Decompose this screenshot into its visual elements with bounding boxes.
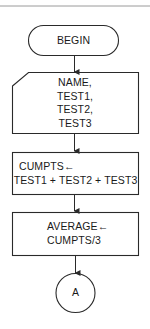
avg-line-assign: AVERAGE← (13, 219, 138, 233)
begin-text: BEGIN (57, 34, 90, 46)
input-line-name: NAME, (20, 76, 130, 90)
input-line-test1: TEST1, (20, 90, 130, 104)
sum-line-assign: CUMPTS← (13, 159, 138, 173)
avg-line-expr: CUMPTS/3 (13, 233, 138, 247)
avg-label: AVERAGE← CUMPTS/3 (13, 219, 138, 247)
input-line-test3: TEST3 (20, 117, 130, 131)
input-label: NAME, TEST1, TEST2, TEST3 (20, 76, 130, 130)
connector-text: A (72, 286, 79, 298)
begin-label: BEGIN (28, 34, 119, 47)
input-line-test2: TEST2, (20, 103, 130, 117)
sum-label: CUMPTS← TEST1 + TEST2 + TEST3 (13, 159, 138, 187)
sum-line-expr: TEST1 + TEST2 + TEST3 (13, 173, 138, 187)
connector-label: A (56, 286, 95, 299)
